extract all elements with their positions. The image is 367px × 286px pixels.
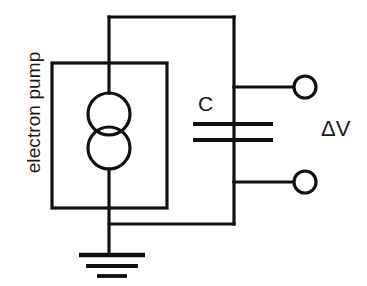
- circuit-diagram: electron pump C ΔV: [0, 0, 367, 286]
- pump-circle-upper: [88, 93, 130, 135]
- capacitor-label: C: [198, 93, 213, 114]
- circuit-schematic-canvas: [0, 0, 367, 286]
- electron-pump-label: electron pump: [24, 48, 43, 178]
- output-terminal-bottom: [294, 171, 316, 193]
- pump-circle-lower: [88, 127, 130, 169]
- voltage-label: ΔV: [321, 118, 350, 140]
- output-terminal-top: [294, 76, 316, 98]
